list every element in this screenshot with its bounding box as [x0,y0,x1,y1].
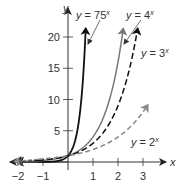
x-tick-label: −2 [12,170,25,182]
y-tick-label: 5 [54,125,60,137]
label-75x: y = 75x [75,9,110,21]
x-tick-label: 1 [90,170,96,182]
y-tick-label: 20 [48,31,60,43]
x-tick-label: 2 [115,170,121,182]
y-tick-label: 10 [48,94,60,106]
y-axis-label: y [62,2,70,14]
exponential-functions-chart: −2−11235101520 y x y = 75x y = 4x y = 3x… [0,0,178,185]
curves [14,28,148,162]
y-tick-label: 15 [48,62,60,74]
x-tick-label: 3 [140,170,146,182]
leader-4x [124,20,141,44]
label-3x: y = 3x [140,47,169,59]
x-tick-label: −1 [37,170,50,182]
label-4x: y = 4x [125,9,154,21]
leader-75x [88,20,100,44]
curve-75x [38,28,86,162]
x-axis-label: x [169,156,176,168]
label-2x: y = 2x [130,136,159,148]
